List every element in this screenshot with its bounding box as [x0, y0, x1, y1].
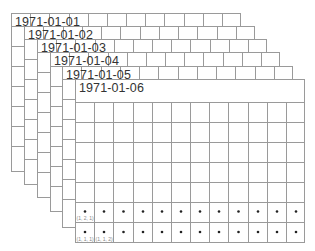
cell-dot	[180, 231, 183, 234]
cell-coordinate-label: (1, 1, 1)	[77, 236, 94, 242]
cell-dot	[218, 210, 221, 213]
cell-dot	[199, 231, 202, 234]
cell-dot	[295, 210, 298, 213]
cell-dot	[161, 231, 164, 234]
cell-dot	[237, 210, 240, 213]
cell-dot	[122, 231, 125, 234]
layer-date-title: 1971-01-06	[79, 81, 144, 95]
cell-dot	[237, 231, 240, 234]
cell-dot	[276, 210, 279, 213]
cell-dot	[161, 210, 164, 213]
cell-dot	[142, 210, 145, 213]
cell-dot	[199, 210, 202, 213]
cell-dot	[103, 210, 106, 213]
cell-dot	[218, 231, 221, 234]
cell-dot	[84, 210, 87, 213]
cell-dot	[180, 210, 183, 213]
cell-dot	[103, 231, 106, 234]
cell-dot	[122, 210, 125, 213]
cell-dot	[84, 231, 87, 234]
stacked-grid-diagram: 1971-01-011971-01-021971-01-031971-01-04…	[0, 0, 315, 251]
grid-layer-6: 1971-01-06(1, 2, 1)(1, 1, 1)(1, 1, 2)	[75, 79, 305, 243]
cell-dot	[257, 210, 260, 213]
cell-coordinate-label: (1, 1, 2)	[96, 236, 113, 242]
cell-coordinate-label: (1, 2, 1)	[77, 215, 94, 221]
cell-dot	[295, 231, 298, 234]
cell-dot	[276, 231, 279, 234]
cell-dot	[257, 231, 260, 234]
cell-dot	[142, 231, 145, 234]
